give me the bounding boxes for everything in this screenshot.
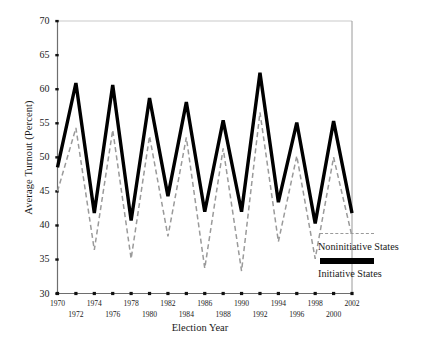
y-tick-label: 70 bbox=[20, 16, 50, 26]
x-tick-mark bbox=[203, 292, 206, 295]
x-tick-label: 1974 bbox=[74, 299, 114, 308]
y-tick-mark bbox=[55, 258, 58, 260]
legend-label-initiative: Initiative States bbox=[318, 267, 430, 281]
x-tick-mark bbox=[350, 292, 353, 295]
x-tick-label: 2002 bbox=[332, 299, 372, 308]
dashed-line-swatch bbox=[318, 228, 430, 240]
y-tick-label: 50 bbox=[20, 152, 50, 162]
x-tick-mark bbox=[166, 292, 169, 295]
x-tick-label: 1990 bbox=[222, 299, 262, 308]
x-tick-label: 1970 bbox=[38, 299, 78, 308]
x-tick-mark bbox=[314, 292, 317, 295]
chart-legend: Noninitiative States Initiative States bbox=[318, 228, 430, 282]
turnout-line-chart: Average Turnout (Percent) Election Year … bbox=[0, 0, 431, 349]
x-axis-title: Election Year bbox=[45, 322, 355, 333]
x-tick-label: 1984 bbox=[166, 310, 206, 319]
x-tick-label: 1996 bbox=[277, 310, 317, 319]
y-tick-mark bbox=[55, 54, 58, 56]
x-tick-mark bbox=[222, 292, 225, 295]
y-tick-mark bbox=[55, 122, 58, 124]
x-tick-label: 1992 bbox=[240, 310, 280, 319]
y-tick-label: 35 bbox=[20, 254, 50, 264]
x-tick-mark bbox=[258, 292, 261, 295]
y-tick-mark bbox=[55, 224, 58, 226]
y-tick-mark bbox=[55, 20, 58, 22]
x-tick-mark bbox=[185, 292, 188, 295]
x-tick-label: 1988 bbox=[203, 310, 243, 319]
y-tick-label: 55 bbox=[20, 118, 50, 128]
y-tick-label: 65 bbox=[20, 50, 50, 60]
x-tick-label: 1982 bbox=[148, 299, 188, 308]
x-tick-mark bbox=[56, 292, 59, 295]
x-tick-mark bbox=[111, 292, 114, 295]
legend-entry-initiative: Initiative States bbox=[318, 255, 430, 281]
x-tick-mark bbox=[240, 292, 243, 295]
y-tick-mark bbox=[55, 88, 58, 90]
legend-entry-noninitiative: Noninitiative States bbox=[318, 228, 430, 254]
y-tick-label: 30 bbox=[20, 289, 50, 299]
x-tick-mark bbox=[93, 292, 96, 295]
x-tick-label: 1972 bbox=[56, 310, 96, 319]
x-tick-label: 1994 bbox=[258, 299, 298, 308]
x-tick-mark bbox=[74, 292, 77, 295]
x-tick-label: 1980 bbox=[130, 310, 170, 319]
y-tick-label: 40 bbox=[20, 220, 50, 230]
x-tick-mark bbox=[148, 292, 151, 295]
x-tick-mark bbox=[277, 292, 280, 295]
x-tick-label: 2000 bbox=[314, 310, 354, 319]
legend-label-noninitiative: Noninitiative States bbox=[318, 240, 430, 254]
y-tick-label: 60 bbox=[20, 84, 50, 94]
x-tick-label: 1978 bbox=[111, 299, 151, 308]
x-tick-label: 1976 bbox=[93, 310, 133, 319]
y-tick-label: 45 bbox=[20, 186, 50, 196]
x-tick-mark bbox=[332, 292, 335, 295]
x-tick-mark bbox=[295, 292, 298, 295]
solid-line-swatch bbox=[318, 255, 430, 267]
x-tick-label: 1986 bbox=[185, 299, 225, 308]
x-tick-mark bbox=[130, 292, 133, 295]
plot-area bbox=[0, 0, 431, 349]
x-tick-label: 1998 bbox=[295, 299, 335, 308]
